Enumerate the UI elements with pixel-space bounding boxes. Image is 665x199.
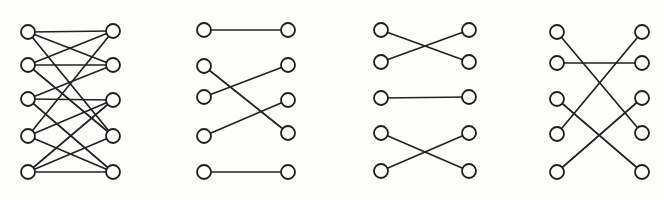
figure-four-bipartite-graphs (0, 0, 665, 199)
bipartite-graph-2-edge-L2-R4 (204, 66, 288, 133)
bipartite-graph-3-left-node-4 (374, 126, 388, 140)
bipartite-graph-3-right-node-2 (462, 55, 476, 69)
bipartite-graph-2-edge-L4-R3 (204, 100, 288, 136)
bipartite-graph-2-right-node-2 (281, 58, 295, 72)
bipartite-graph-4-left-node-3 (550, 92, 564, 106)
bipartite-graph-1 (21, 24, 120, 179)
bipartite-graph-1-right-node-5 (106, 165, 120, 179)
bipartite-graph-4 (550, 25, 649, 179)
bipartite-graph-1-right-node-3 (106, 93, 120, 107)
bipartite-graph-3 (374, 23, 476, 178)
bipartite-graph-1-left-node-4 (21, 129, 35, 143)
bipartite-graph-2-right-node-3 (281, 93, 295, 107)
bipartite-graph-2 (197, 23, 295, 179)
bipartite-graph-4-left-node-2 (550, 56, 564, 70)
bipartite-graph-1-edge-L3-R3 (28, 99, 113, 100)
bipartite-graph-4-left-node-5 (550, 165, 564, 179)
bipartite-graph-1-left-node-5 (21, 165, 35, 179)
bipartite-graph-1-left-node-2 (21, 58, 35, 72)
bipartite-graph-1-edge-L4-R3 (28, 100, 113, 136)
bipartite-graph-1-right-node-2 (106, 58, 120, 72)
bipartite-graph-1-right-node-1 (106, 24, 120, 38)
bipartite-graph-1-edge-L3-R2 (28, 65, 113, 99)
bipartite-graph-2-right-node-1 (281, 23, 295, 37)
bipartite-graph-4-right-node-2 (635, 56, 649, 70)
bipartite-graph-3-right-node-5 (462, 164, 476, 178)
bipartite-graphs-canvas (0, 0, 665, 199)
bipartite-graph-4-left-node-1 (550, 25, 564, 39)
bipartite-graph-4-left-node-4 (550, 127, 564, 141)
bipartite-graph-4-right-node-1 (635, 25, 649, 39)
bipartite-graph-4-right-node-5 (635, 165, 649, 179)
bipartite-graph-2-left-node-1 (197, 23, 211, 37)
bipartite-graph-2-right-node-5 (281, 165, 295, 179)
bipartite-graph-3-left-node-1 (374, 23, 388, 37)
bipartite-graph-4-right-node-3 (635, 91, 649, 105)
bipartite-graph-2-left-node-3 (197, 90, 211, 104)
bipartite-graph-3-right-node-4 (462, 126, 476, 140)
bipartite-graph-2-left-node-4 (197, 129, 211, 143)
bipartite-graph-1-right-node-4 (106, 129, 120, 143)
bipartite-graph-2-left-node-2 (197, 59, 211, 73)
bipartite-graph-3-edge-L3-R3 (381, 97, 469, 98)
bipartite-graph-3-right-node-1 (462, 23, 476, 37)
bipartite-graph-3-left-node-5 (374, 164, 388, 178)
bipartite-graph-3-left-node-3 (374, 91, 388, 105)
bipartite-graph-2-right-node-4 (281, 126, 295, 140)
bipartite-graph-4-right-node-4 (635, 126, 649, 140)
bipartite-graph-3-left-node-2 (374, 55, 388, 69)
bipartite-graph-1-left-node-3 (21, 92, 35, 106)
bipartite-graph-2-edge-L3-R2 (204, 65, 288, 97)
bipartite-graph-3-right-node-3 (462, 90, 476, 104)
bipartite-graph-1-edge-L1-R1 (28, 31, 113, 32)
bipartite-graph-2-left-node-5 (197, 165, 211, 179)
bipartite-graph-1-left-node-1 (21, 25, 35, 39)
